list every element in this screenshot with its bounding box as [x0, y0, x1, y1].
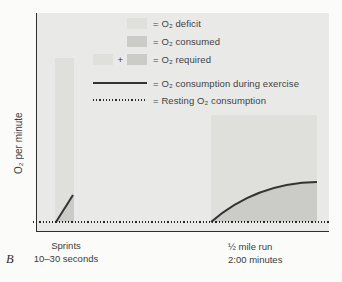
legend-label: = O₂ deficit — [153, 18, 201, 29]
legend-label: = O₂ required — [153, 54, 211, 65]
consumed-swatch — [127, 36, 147, 47]
legend-item-resting-consumption: = Resting O₂ consumption — [45, 91, 299, 109]
legend-item-required: + = O₂ required — [45, 50, 299, 68]
legend-label: = O₂ consumption during exercise — [153, 78, 299, 89]
resting-o2-dotted-line — [33, 221, 331, 223]
panel-letter: B — [6, 252, 14, 267]
x-label-half-mile-line1: ½ mile run — [228, 241, 282, 254]
x-label-sprints-line2: 10–30 seconds — [22, 253, 110, 266]
legend-item-exercise-consumption: = O₂ consumption during exercise — [45, 75, 299, 91]
figure-panel: = O₂ deficit = O₂ consumed + = O₂ requir… — [0, 0, 342, 282]
plot-area: = O₂ deficit = O₂ consumed + = O₂ requir… — [36, 13, 329, 232]
x-label-sprints-line1: Sprints — [22, 240, 110, 253]
x-label-half-mile-line2: 2:00 minutes — [228, 254, 282, 267]
legend-item-consumed: = O₂ consumed — [45, 32, 299, 50]
solid-line-key — [93, 82, 147, 84]
consumed-swatch — [127, 54, 147, 65]
legend-label: = Resting O₂ consumption — [153, 95, 266, 106]
legend-label: = O₂ consumed — [153, 36, 220, 47]
y-axis-label: O₂ per minute — [13, 88, 24, 198]
deficit-swatch — [127, 18, 147, 29]
legend: = O₂ deficit = O₂ consumed + = O₂ requir… — [45, 14, 299, 109]
x-label-sprints: Sprints 10–30 seconds — [22, 240, 110, 265]
x-label-half-mile: ½ mile run 2:00 minutes — [228, 241, 282, 266]
half-mile-consumed-area — [211, 182, 317, 222]
deficit-swatch — [93, 54, 113, 65]
plus-sign: + — [117, 54, 123, 65]
dotted-line-key — [93, 99, 147, 101]
legend-item-deficit: = O₂ deficit — [45, 14, 299, 32]
